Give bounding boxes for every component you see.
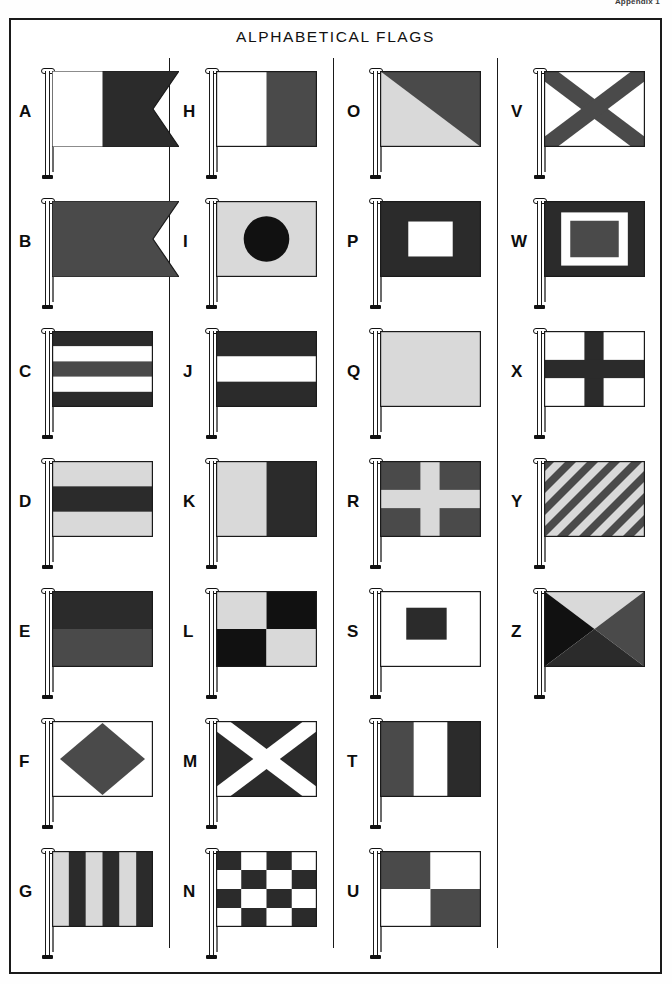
flag-cell-c: C	[13, 316, 173, 446]
flag-staff	[207, 458, 216, 568]
flag-staff	[371, 718, 380, 828]
flag-juliett	[207, 324, 333, 442]
flag-yankee	[535, 454, 661, 572]
staff-shaft	[373, 851, 378, 955]
flag-cell-k: K	[177, 446, 337, 576]
flag-column-1: ABCDEFG	[13, 56, 173, 966]
flag-lima-cloth	[216, 591, 317, 667]
flag-staff	[371, 458, 380, 568]
flag-mike-cloth	[216, 721, 317, 797]
staff-heel	[206, 695, 217, 699]
flag-staff	[207, 198, 216, 308]
flag-echo-cloth	[52, 591, 153, 667]
flag-bravo-cloth	[52, 201, 153, 277]
flag-letter-p: P	[347, 232, 358, 252]
flag-letter-w: W	[511, 232, 527, 252]
staff-heel	[206, 955, 217, 959]
flag-staff	[371, 328, 380, 438]
flag-lima	[207, 584, 333, 702]
staff-shaft	[45, 591, 50, 695]
flag-cell-p: P	[341, 186, 501, 316]
flag-letter-d: D	[19, 492, 31, 512]
flag-letter-e: E	[19, 622, 30, 642]
flag-sierra	[371, 584, 497, 702]
corner-appendix-label: Appendix 1	[615, 0, 660, 6]
staff-shaft	[45, 331, 50, 435]
flag-staff	[371, 588, 380, 698]
flag-cell-g: G	[13, 836, 173, 966]
flag-cell-j: J	[177, 316, 337, 446]
staff-shaft	[537, 591, 542, 695]
flag-staff	[535, 588, 544, 698]
flag-letter-a: A	[19, 102, 31, 122]
flag-letter-k: K	[183, 492, 195, 512]
flag-staff	[371, 198, 380, 308]
flag-cell-f: F	[13, 706, 173, 836]
staff-shaft	[45, 851, 50, 955]
flag-cell-b: B	[13, 186, 173, 316]
staff-heel	[534, 175, 545, 179]
flag-letter-h: H	[183, 102, 195, 122]
staff-heel	[42, 305, 53, 309]
plate-frame: ALPHABETICAL FLAGS ABCDEFG HIJKLMN OPQRS…	[9, 18, 662, 974]
staff-shaft	[209, 591, 214, 695]
flag-cell-w: W	[505, 186, 665, 316]
flag-oscar-cloth	[380, 71, 481, 147]
flag-zulu	[535, 584, 661, 702]
staff-shaft	[373, 71, 378, 175]
flag-kilo-cloth	[216, 461, 317, 537]
flag-column-2: HIJKLMN	[177, 56, 337, 966]
flag-staff	[207, 68, 216, 178]
flag-cell-empty	[505, 706, 665, 836]
staff-heel	[42, 695, 53, 699]
flag-letter-v: V	[511, 102, 522, 122]
staff-heel	[370, 695, 381, 699]
staff-shaft	[537, 461, 542, 565]
flag-cell-z: Z	[505, 576, 665, 706]
flag-cell-h: H	[177, 56, 337, 186]
flag-delta	[43, 454, 169, 572]
flag-cell-u: U	[341, 836, 501, 966]
flag-staff	[535, 458, 544, 568]
staff-heel	[534, 565, 545, 569]
flag-staff	[371, 68, 380, 178]
flag-staff	[207, 718, 216, 828]
flag-cell-a: A	[13, 56, 173, 186]
staff-shaft	[45, 201, 50, 305]
flag-romeo	[371, 454, 497, 572]
page-sheet: Appendix 1 ALPHABETICAL FLAGS ABCDEFG HI…	[0, 0, 672, 984]
flag-victor-cloth	[544, 71, 645, 147]
staff-shaft	[209, 331, 214, 435]
flag-letter-x: X	[511, 362, 522, 382]
flag-staff	[43, 718, 52, 828]
staff-heel	[370, 955, 381, 959]
flag-charlie-cloth	[52, 331, 153, 407]
flag-cell-empty	[505, 836, 665, 966]
staff-heel	[42, 435, 53, 439]
flag-papa	[371, 194, 497, 312]
flag-staff	[207, 328, 216, 438]
flag-staff	[535, 68, 544, 178]
flag-letter-l: L	[183, 622, 193, 642]
flag-kilo	[207, 454, 333, 572]
staff-heel	[370, 565, 381, 569]
staff-shaft	[373, 721, 378, 825]
staff-shaft	[373, 331, 378, 435]
flag-hotel-cloth	[216, 71, 317, 147]
staff-shaft	[45, 721, 50, 825]
flag-oscar	[371, 64, 497, 182]
flag-column-3: OPQRSTU	[341, 56, 501, 966]
staff-shaft	[209, 721, 214, 825]
flag-cell-n: N	[177, 836, 337, 966]
staff-shaft	[537, 71, 542, 175]
staff-heel	[370, 435, 381, 439]
flag-staff	[535, 198, 544, 308]
flag-uniform-cloth	[380, 851, 481, 927]
flag-november	[207, 844, 333, 962]
flag-staff	[43, 198, 52, 308]
flag-mike	[207, 714, 333, 832]
staff-shaft	[45, 461, 50, 565]
flag-staff	[207, 848, 216, 958]
flag-cell-m: M	[177, 706, 337, 836]
flag-letter-z: Z	[511, 622, 521, 642]
